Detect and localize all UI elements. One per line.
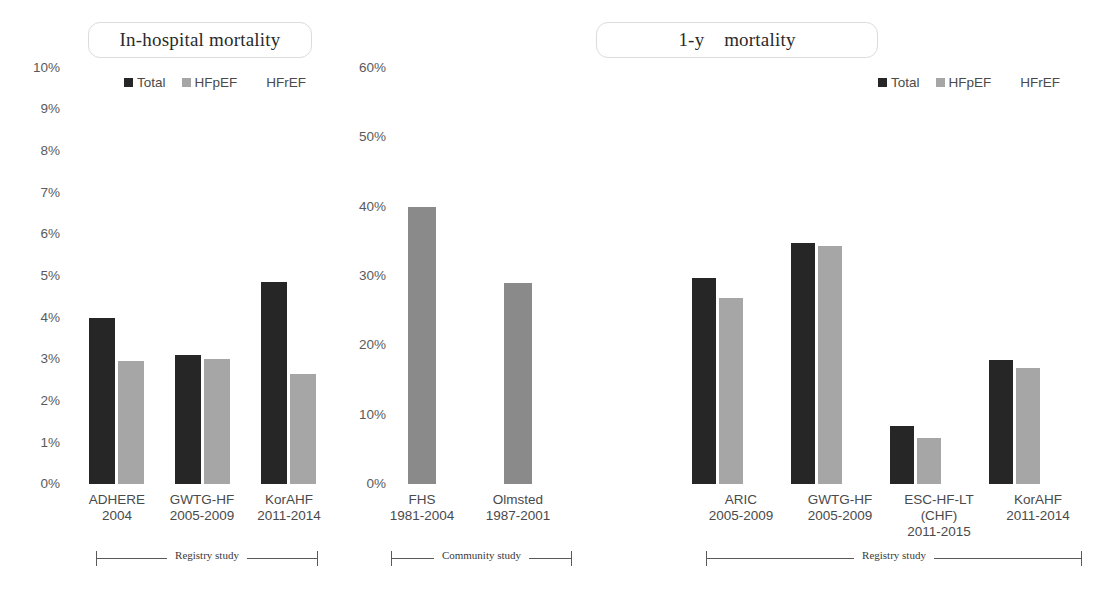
- ytick-mid-10: 10%: [340, 408, 386, 422]
- catlabel-korahf-1y-line2: 2011-2014: [988, 508, 1088, 524]
- bracket-label-community: Community study: [391, 549, 572, 561]
- catlabel-fhs: FHS 1981-2004: [372, 492, 472, 524]
- catlabel-olmsted-line1: Olmsted: [468, 492, 568, 508]
- bracket-registry-left: Registry study: [96, 546, 318, 572]
- catlabel-gwtghf-1y-line2: 2005-2009: [790, 508, 890, 524]
- catlabel-aric-line1: ARIC: [691, 492, 791, 508]
- bar-aric-hfpef: [719, 298, 743, 484]
- plot-area-one-year: [640, 68, 1080, 484]
- catlabel-gwtghf-1y: GWTG-HF 2005-2009: [790, 492, 890, 524]
- panel-title-in-hospital: In-hospital mortality: [88, 22, 312, 58]
- bar-gwtghf-total: [175, 355, 201, 484]
- bar-olmsted-hfpef: [504, 283, 532, 484]
- catlabel-eschflt-line2: (CHF): [889, 508, 989, 524]
- bracket-registry-right: Registry study: [706, 546, 1082, 572]
- catlabel-eschflt-line1: ESC-HF-LT: [889, 492, 989, 508]
- bar-korahf-hfpef: [290, 374, 316, 484]
- ytick-left-1: 1%: [14, 436, 60, 450]
- bar-eschflt-total: [890, 426, 914, 484]
- ytick-mid-0: 0%: [340, 477, 386, 491]
- bar-fhs-hfpef: [408, 207, 436, 484]
- catlabel-olmsted-line2: 1987-2001: [468, 508, 568, 524]
- catlabel-korahf-line2: 2011-2014: [239, 508, 339, 524]
- bar-adhere-total: [89, 318, 115, 484]
- catlabel-fhs-line2: 1981-2004: [372, 508, 472, 524]
- bar-gwtghf-hfpef: [204, 359, 230, 484]
- bar-gwtghf-1y-hfpef: [818, 246, 842, 484]
- figure-mortality-bar-charts: In-hospital mortality Total HFpEF HFrEF …: [0, 0, 1102, 600]
- catlabel-gwtghf-line2: 2005-2009: [152, 508, 252, 524]
- panel-title-one-year: 1-y mortality: [596, 22, 878, 58]
- catlabel-korahf-1y-line1: KorAHF: [988, 492, 1088, 508]
- plot-area-community: [400, 68, 590, 484]
- bar-adhere-hfpef: [118, 361, 144, 484]
- bracket-label-registry-left: Registry study: [96, 549, 318, 561]
- ytick-mid-40: 40%: [340, 200, 386, 214]
- catlabel-korahf: KorAHF 2011-2014: [239, 492, 339, 524]
- ytick-left-2: 2%: [14, 394, 60, 408]
- bar-eschflt-hfpef: [917, 438, 941, 484]
- ytick-mid-20: 20%: [340, 338, 386, 352]
- ytick-left-3: 3%: [14, 352, 60, 366]
- catlabel-aric: ARIC 2005-2009: [691, 492, 791, 524]
- catlabel-aric-line2: 2005-2009: [691, 508, 791, 524]
- bar-korahf-1y-total: [989, 360, 1013, 484]
- bar-korahf-1y-hfpef: [1016, 368, 1040, 484]
- catlabel-korahf-1y: KorAHF 2011-2014: [988, 492, 1088, 524]
- catlabel-gwtghf-line1: GWTG-HF: [152, 492, 252, 508]
- ytick-left-7: 7%: [14, 186, 60, 200]
- plot-area-in-hospital: [75, 68, 330, 484]
- bracket-community: Community study: [391, 546, 572, 572]
- catlabel-korahf-line1: KorAHF: [239, 492, 339, 508]
- bar-korahf-total: [261, 282, 287, 484]
- ytick-left-0: 0%: [14, 477, 60, 491]
- ytick-mid-60: 60%: [340, 61, 386, 75]
- catlabel-fhs-line1: FHS: [372, 492, 472, 508]
- ytick-left-6: 6%: [14, 227, 60, 241]
- ytick-left-5: 5%: [14, 269, 60, 283]
- catlabel-gwtghf-1y-line1: GWTG-HF: [790, 492, 890, 508]
- ytick-left-4: 4%: [14, 311, 60, 325]
- ytick-mid-30: 30%: [340, 269, 386, 283]
- bar-gwtghf-1y-total: [791, 243, 815, 484]
- catlabel-eschflt-line3: 2011-2015: [889, 524, 989, 540]
- ytick-left-9: 9%: [14, 102, 60, 116]
- bar-aric-total: [692, 278, 716, 484]
- bracket-label-registry-right: Registry study: [706, 549, 1082, 561]
- catlabel-gwtghf: GWTG-HF 2005-2009: [152, 492, 252, 524]
- ytick-mid-50: 50%: [340, 130, 386, 144]
- ytick-left-8: 8%: [14, 144, 60, 158]
- catlabel-eschflt: ESC-HF-LT (CHF) 2011-2015: [889, 492, 989, 540]
- catlabel-olmsted: Olmsted 1987-2001: [468, 492, 568, 524]
- ytick-left-10: 10%: [14, 61, 60, 75]
